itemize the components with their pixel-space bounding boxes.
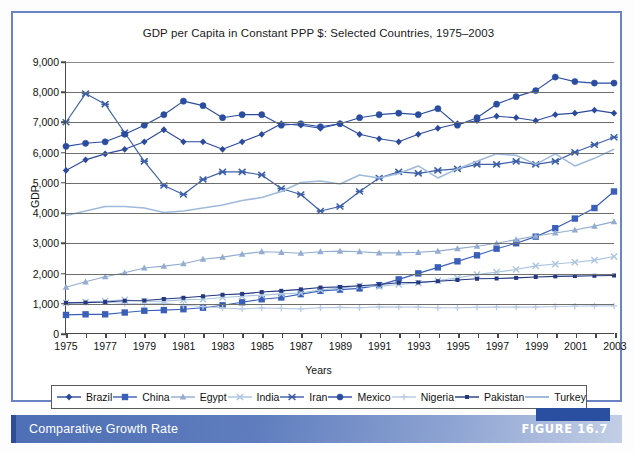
x-tick-mark — [164, 333, 166, 338]
y-tick-label: 9,000 — [33, 56, 59, 68]
series-india — [63, 253, 617, 306]
x-tick-mark — [399, 333, 401, 338]
y-tick-label: 2,000 — [33, 268, 59, 280]
legend-marker-diamond-icon — [56, 391, 82, 403]
x-tick-mark — [262, 333, 264, 338]
legend-item-china[interactable]: China — [112, 391, 169, 403]
chart-legend: BrazilChinaEgyptIndiaIranMexicoNigeriaPa… — [51, 385, 587, 409]
figure-caption: Comparative Growth Rate — [29, 422, 178, 436]
x-tick-mark — [86, 333, 88, 338]
series-mexico — [63, 74, 617, 149]
x-axis-title: Years — [13, 364, 624, 376]
y-tick-mark — [61, 212, 66, 214]
legend-label: China — [140, 391, 169, 403]
gridline — [66, 183, 614, 184]
plot-area: 01,0002,0003,0004,0005,0006,0007,0008,00… — [65, 62, 614, 334]
y-tick-label: 3,000 — [33, 237, 59, 249]
legend-item-turkey[interactable]: Turkey — [524, 391, 586, 403]
legend-label: Turkey — [552, 391, 586, 403]
x-tick-mark — [125, 333, 127, 338]
legend-marker-square-icon — [112, 391, 138, 403]
x-tick-label: 1993 — [407, 340, 430, 352]
x-tick-mark — [556, 333, 558, 338]
y-tick-mark — [61, 61, 66, 63]
x-tick-label: 1985 — [250, 340, 273, 352]
y-tick-label: 7,000 — [33, 116, 59, 128]
gridline — [66, 274, 614, 275]
x-tick-mark — [419, 333, 421, 338]
x-tick-mark — [576, 333, 578, 338]
legend-marker-line-icon — [524, 391, 550, 403]
legend-item-brazil[interactable]: Brazil — [56, 391, 112, 403]
x-tick-mark — [380, 333, 382, 338]
x-tick-label: 2003 — [603, 340, 626, 352]
x-tick-label: 1979 — [133, 340, 156, 352]
x-tick-label: 1981 — [172, 340, 195, 352]
chart-frame: GDP per Capita in Constant PPP $: Select… — [11, 11, 622, 402]
x-tick-label: 2001 — [564, 340, 587, 352]
series-line — [66, 257, 614, 303]
x-tick-mark — [517, 333, 519, 338]
gridline — [66, 304, 614, 305]
legend-marker-triangle-icon — [170, 391, 196, 403]
legend-marker-circle-icon — [327, 391, 353, 403]
x-tick-mark — [66, 333, 68, 338]
x-tick-label: 1975 — [54, 340, 77, 352]
figure-number: FIGURE 16.7 — [521, 422, 608, 436]
y-tick-mark — [61, 243, 66, 245]
x-tick-mark — [184, 333, 186, 338]
y-tick-label: 4,000 — [33, 207, 59, 219]
x-tick-label: 1991 — [368, 340, 391, 352]
y-tick-label: 8,000 — [33, 86, 59, 98]
x-tick-mark — [458, 333, 460, 338]
legend-item-egypt[interactable]: Egypt — [170, 391, 227, 403]
y-tick-label: 1,000 — [33, 298, 59, 310]
series-layer — [66, 62, 614, 333]
legend-marker-plus-icon — [391, 391, 417, 403]
x-tick-label: 1995 — [446, 340, 469, 352]
series-line — [66, 77, 614, 146]
y-tick-mark — [61, 152, 66, 154]
caption-accent-bar — [11, 415, 16, 443]
legend-label: India — [255, 391, 280, 403]
x-tick-mark — [321, 333, 323, 338]
x-tick-mark — [144, 333, 146, 338]
x-tick-mark — [105, 333, 107, 338]
y-tick-mark — [61, 303, 66, 305]
x-tick-mark — [203, 333, 205, 338]
x-tick-label: 1987 — [290, 340, 313, 352]
legend-item-mexico[interactable]: Mexico — [327, 391, 390, 403]
y-tick-label: 5,000 — [33, 177, 59, 189]
gridline — [66, 213, 614, 214]
legend-marker-small-square-icon — [454, 391, 480, 403]
gridline — [66, 122, 614, 123]
figure-number-tab — [536, 408, 610, 421]
x-tick-mark — [537, 333, 539, 338]
legend-item-pakistan[interactable]: Pakistan — [454, 391, 524, 403]
gridline — [66, 92, 614, 93]
legend-item-iran[interactable]: Iran — [279, 391, 327, 403]
y-tick-mark — [61, 91, 66, 93]
y-tick-label: 6,000 — [33, 147, 59, 159]
x-tick-mark — [282, 333, 284, 338]
x-tick-mark — [595, 333, 597, 338]
y-tick-mark — [61, 273, 66, 275]
legend-label: Mexico — [355, 391, 390, 403]
series-egypt — [63, 218, 618, 290]
x-tick-mark — [478, 333, 480, 338]
x-tick-mark — [615, 333, 617, 338]
legend-marker-asterisk-icon — [279, 391, 305, 403]
x-tick-label: 1977 — [94, 340, 117, 352]
gridline — [66, 153, 614, 154]
x-tick-label: 1989 — [329, 340, 352, 352]
legend-label: Nigeria — [419, 391, 454, 403]
x-tick-mark — [497, 333, 499, 338]
y-tick-label: 0 — [53, 328, 59, 340]
x-tick-mark — [242, 333, 244, 338]
legend-item-nigeria[interactable]: Nigeria — [391, 391, 454, 403]
gridline — [66, 62, 614, 63]
legend-item-india[interactable]: India — [227, 391, 280, 403]
chart-title: GDP per Capita in Constant PPP $: Select… — [13, 27, 624, 39]
x-tick-mark — [360, 333, 362, 338]
x-tick-label: 1999 — [525, 340, 548, 352]
